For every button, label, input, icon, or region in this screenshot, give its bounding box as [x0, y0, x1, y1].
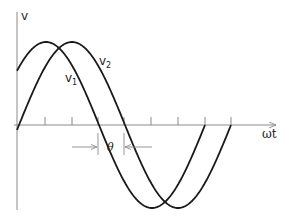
x-axis-ticks	[45, 117, 231, 125]
phase-indicator: θ	[72, 133, 152, 155]
x-axis-label: ωt	[262, 127, 277, 141]
y-axis-label: v	[21, 9, 28, 23]
phase-diagram: v ωt v2 v1 θ	[0, 0, 290, 223]
v2-label: v2	[99, 54, 111, 70]
phase-label-theta: θ	[107, 141, 114, 154]
